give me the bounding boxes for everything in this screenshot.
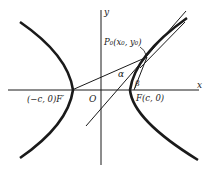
origin-label: O bbox=[89, 94, 97, 104]
second-line bbox=[140, 22, 185, 68]
F-right-label: F(c, 0) bbox=[135, 93, 164, 103]
alpha-label: α bbox=[118, 69, 124, 79]
y-axis-label: y bbox=[103, 7, 110, 17]
x-axis-label: x bbox=[197, 80, 202, 90]
F-left-label: (−c, 0)F′ bbox=[27, 94, 64, 104]
beta-label: β bbox=[134, 79, 140, 88]
p0-pointer bbox=[140, 47, 146, 55]
hyperbola-diagram: y x O P₀(x₀, y₀) (−c, 0)F′ F(c, 0) α β bbox=[0, 0, 215, 172]
P0-label: P₀(x₀, y₀) bbox=[103, 37, 142, 47]
